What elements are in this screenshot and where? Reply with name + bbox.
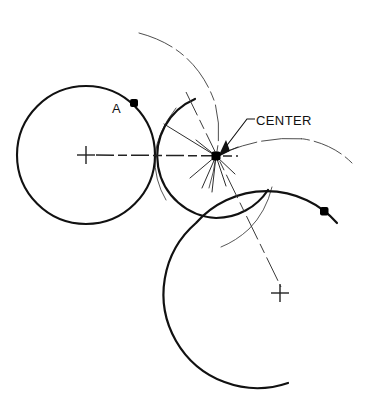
lower-right-arc [164, 191, 337, 388]
center-crosses-group [77, 146, 289, 302]
primary-geometry-group [17, 86, 337, 388]
center-label: CENTER [256, 113, 312, 128]
left-center-cross [77, 146, 95, 164]
centerlines-group [96, 92, 281, 287]
construction-drawing: CENTER A [0, 0, 369, 408]
construction-arc-right [216, 138, 352, 163]
lower-center-cross [271, 284, 289, 302]
radius-line-upper-left [164, 124, 216, 156]
point-a-dot [130, 99, 138, 107]
figure-root: CENTER A [0, 0, 369, 408]
center-point [212, 152, 221, 161]
radius-spokes [164, 124, 238, 192]
point-a-label: A [112, 101, 121, 116]
center-leader-line [218, 119, 255, 157]
construction-arc-top [139, 33, 219, 156]
construction-arcs-group [139, 33, 352, 247]
right-arc-dot [320, 207, 329, 216]
